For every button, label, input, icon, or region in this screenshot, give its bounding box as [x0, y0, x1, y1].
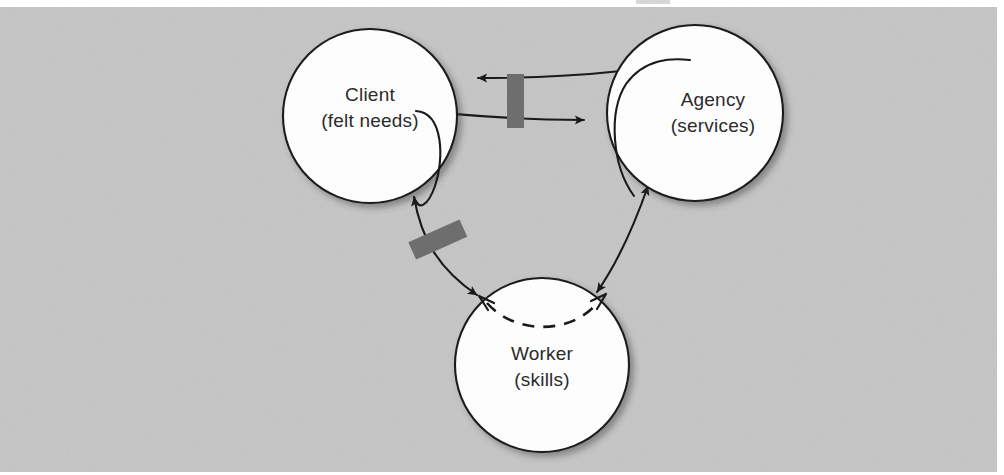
node-worker[interactable]: Worker (skills) — [455, 278, 629, 452]
diagram-canvas: Client (felt needs) Agency (services) Wo… — [0, 0, 1004, 475]
node-worker-label-primary: Worker — [511, 343, 574, 364]
node-client-label-primary: Client — [345, 84, 395, 105]
barrier-client-agency — [507, 74, 524, 128]
node-agency-label-secondary: (services) — [671, 115, 755, 136]
node-worker-circle[interactable] — [455, 278, 629, 452]
node-client-label-secondary: (felt needs) — [321, 110, 418, 131]
node-client[interactable]: Client (felt needs) — [283, 29, 457, 203]
figure-page: Client (felt needs) Agency (services) Wo… — [0, 0, 1004, 475]
node-worker-label-secondary: (skills) — [514, 369, 569, 390]
scan-artifact — [636, 0, 670, 4]
node-agency-label-primary: Agency — [681, 89, 746, 110]
node-agency[interactable]: Agency (services) — [607, 25, 783, 201]
node-agency-circle[interactable] — [607, 25, 783, 201]
